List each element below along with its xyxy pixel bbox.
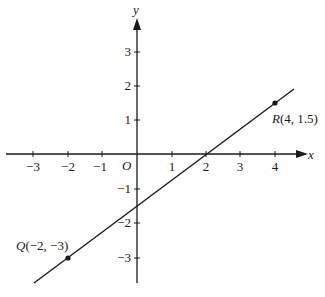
- y-tick-label: 3: [125, 44, 132, 59]
- x-tick-label: 4: [272, 159, 279, 174]
- x-axis-label: x: [307, 147, 314, 162]
- y-tick-label: 2: [125, 78, 132, 93]
- x-tick-label: −3: [26, 159, 40, 174]
- x-tick-label: 3: [237, 159, 244, 174]
- x-tick-label: −2: [61, 159, 75, 174]
- x-tick-label: −1: [93, 159, 107, 174]
- point-q-marker-icon: [65, 255, 70, 260]
- y-tick-label: 1: [125, 112, 132, 127]
- y-tick-label: −1: [117, 181, 131, 196]
- origin-label: O: [122, 158, 132, 173]
- point-r-marker-icon: [272, 100, 277, 105]
- point-q-label: Q(−2, −3): [16, 238, 68, 253]
- x-tick-label: 2: [203, 159, 210, 174]
- coordinate-diagram: x y O −3 −2 −1 1 2 3 4 3 2 1 −1 −2 −3 Q(…: [0, 0, 325, 297]
- line-qr: [34, 89, 294, 283]
- point-r-label: R(4, 1.5): [271, 111, 318, 126]
- x-axis-arrow-icon: [296, 150, 308, 158]
- x-tick-label: 1: [169, 159, 176, 174]
- y-axis-arrow-icon: [133, 18, 141, 30]
- x-tick-labels: −3 −2 −1 1 2 3 4: [26, 159, 279, 174]
- y-axis-label: y: [131, 2, 139, 17]
- y-tick-label: −3: [117, 250, 131, 265]
- y-tick-label: −2: [117, 215, 131, 230]
